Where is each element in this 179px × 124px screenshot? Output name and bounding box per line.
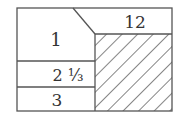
diagonal-divider bbox=[73, 8, 95, 34]
hatched-region bbox=[95, 34, 172, 111]
region-12-label: 12 bbox=[124, 12, 146, 32]
region-2-1-3-label: 2 ⅓ bbox=[53, 66, 84, 85]
region-3-label: 3 bbox=[52, 90, 63, 110]
region-1-label: 1 bbox=[50, 29, 61, 50]
area-partition-diagram: 1 12 2 ⅓ 3 bbox=[0, 0, 179, 124]
